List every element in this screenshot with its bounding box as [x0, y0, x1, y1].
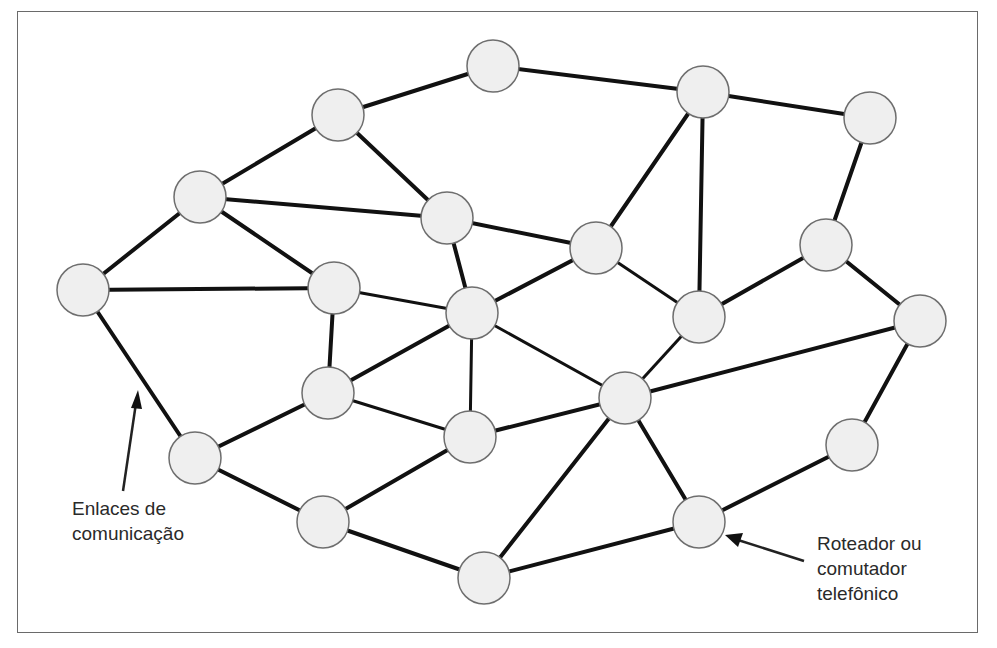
- link-n15-n21: [484, 398, 625, 578]
- router-node-n7: [421, 192, 473, 244]
- router-node-n11: [800, 219, 852, 271]
- link-n4-n5: [493, 66, 703, 92]
- router-node-n12: [673, 291, 725, 343]
- router-switch-label: Roteador ou comutador telefônico: [817, 531, 922, 606]
- links-callout-arrow: [123, 390, 142, 491]
- router-node-n8: [308, 262, 360, 314]
- router-node-n20: [673, 496, 725, 548]
- router-node-n10: [570, 222, 622, 274]
- router-node-n19: [297, 496, 349, 548]
- link-n2-n7: [200, 197, 447, 218]
- link-n5-n12: [699, 92, 703, 317]
- router-node-n13: [894, 295, 946, 347]
- link-n13-n15: [625, 321, 920, 398]
- router-node-n6: [844, 92, 896, 144]
- router-node-n17: [169, 432, 221, 484]
- router-node-n21: [458, 552, 510, 604]
- router-callout-arrow: [725, 533, 804, 561]
- link-n20-n21: [484, 522, 699, 578]
- router-node-n3: [312, 89, 364, 141]
- link-n1-n17: [83, 290, 195, 458]
- communication-links: [83, 66, 920, 578]
- router-node-n2: [174, 171, 226, 223]
- router-node-n14: [302, 367, 354, 419]
- communication-links-label: Enlaces de comunicação: [72, 496, 184, 546]
- router-node-n18: [826, 419, 878, 471]
- router-node-n5: [677, 66, 729, 118]
- router-node-n4: [467, 40, 519, 92]
- link-n5-n10: [596, 92, 703, 248]
- router-node-n9: [446, 287, 498, 339]
- router-nodes: [57, 40, 946, 604]
- router-node-n16: [444, 411, 496, 463]
- router-node-n1: [57, 264, 109, 316]
- router-node-n15: [599, 372, 651, 424]
- link-n1-n8: [83, 288, 334, 290]
